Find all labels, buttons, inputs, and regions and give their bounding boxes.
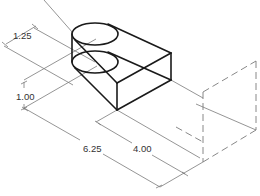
extension-line-bottom	[117, 110, 200, 158]
top-face-back-edge	[108, 24, 171, 53]
dimension-line-length	[103, 154, 160, 187]
leader-line	[44, 0, 73, 33]
dim-label-height: 1.00	[16, 91, 35, 102]
dim-label-length: 6.25	[83, 143, 102, 154]
panel-diagonal	[196, 104, 256, 130]
dimension-line-width-a	[98, 123, 132, 143]
dimension-line-width-b	[152, 155, 185, 174]
top-face-front-edge	[75, 40, 117, 83]
bottom-face-right-edge	[117, 80, 171, 110]
extension-line-width-2	[160, 162, 203, 187]
extension-line-width	[96, 110, 117, 122]
dim-label-radius: 1.25	[13, 30, 32, 41]
hidden-edge-lower	[176, 127, 203, 142]
extension-line-right	[171, 80, 203, 98]
isometric-drawing: 1.25 1.00 6.25 4.00	[0, 0, 260, 196]
dim-label-width: 4.00	[133, 143, 152, 154]
tick-width-a	[95, 121, 101, 125]
bottom-face-front-edge	[75, 68, 117, 110]
hidden-edge-top	[203, 61, 256, 92]
center-leader	[24, 39, 96, 80]
extension-line-radius-b	[4, 46, 73, 85]
extension-line-length	[24, 108, 80, 140]
hidden-edge-bottom	[203, 130, 256, 162]
